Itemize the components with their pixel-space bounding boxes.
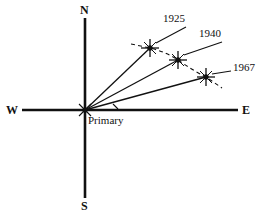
leader-line-1925 xyxy=(156,27,186,43)
compass-direction-figure: N S W E Primary 1925 1940 1967 xyxy=(0,0,267,220)
ray-1940 xyxy=(85,60,178,110)
year-label-1940: 1940 xyxy=(199,28,221,39)
star-marker-1940 xyxy=(169,51,187,69)
axis-label-south: S xyxy=(81,200,88,212)
leader-line-1940 xyxy=(184,42,222,55)
star-marker-1967 xyxy=(197,68,215,86)
year-label-1967: 1967 xyxy=(233,62,255,73)
axis-label-north: N xyxy=(80,4,89,16)
figure-canvas xyxy=(0,0,267,220)
year-label-1925: 1925 xyxy=(163,13,185,24)
axis-label-east: E xyxy=(242,104,250,116)
axis-label-west: W xyxy=(6,104,18,116)
leader-line-1967 xyxy=(212,71,231,74)
track-curve xyxy=(131,44,222,88)
origin-label-primary: Primary xyxy=(88,115,123,126)
angle-tick-mark xyxy=(113,104,118,109)
